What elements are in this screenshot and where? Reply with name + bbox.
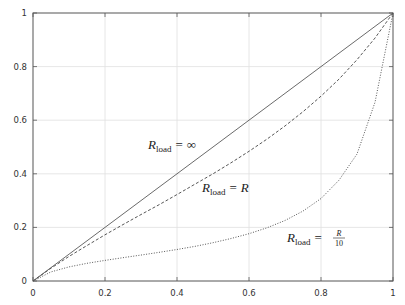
y-tick-label: 0.2 — [13, 222, 27, 232]
annotation-rload-r: Rload=R — [201, 180, 249, 197]
annot-r: R — [201, 180, 210, 195]
y-tick-label: 0 — [22, 276, 27, 286]
annot-frac-num: R — [336, 229, 342, 238]
annot-r: R — [147, 137, 156, 152]
x-tick-labels: 00.20.40.60.81 — [30, 288, 395, 298]
annot-eq: = — [229, 180, 236, 195]
annot-r: R — [286, 230, 295, 245]
annot-lhs: Rload= — [286, 230, 322, 247]
x-tick-label: 0.4 — [170, 288, 184, 298]
y-tick-label: 0.6 — [13, 115, 27, 125]
annot-eq: = — [175, 137, 182, 152]
y-tick-labels: 00.20.40.60.81 — [13, 8, 27, 286]
annot-rhs: R — [240, 180, 249, 195]
annot-sub: load — [156, 144, 172, 154]
annot-sub: load — [210, 187, 226, 197]
x-tick-label: 0.6 — [242, 288, 256, 298]
y-tick-label: 0.8 — [13, 62, 27, 72]
annot-sub: load — [295, 237, 311, 247]
annotation-rload-r10: Rload= R 10 — [286, 229, 345, 248]
x-tick-label: 0.2 — [98, 288, 112, 298]
y-tick-label: 0.4 — [13, 169, 27, 179]
chart: 00.20.40.60.81 00.20.40.60.81 Rload=∞ Rl… — [0, 0, 405, 305]
x-tick-label: 0.8 — [314, 288, 328, 298]
annot-eq: = — [314, 230, 321, 245]
annot-frac-den: 10 — [335, 239, 343, 248]
y-tick-label: 1 — [22, 8, 27, 18]
annot-rhs: ∞ — [187, 137, 196, 152]
x-tick-label: 0 — [30, 288, 35, 298]
annotation-rload-inf: Rload=∞ — [147, 137, 196, 154]
x-tick-label: 1 — [390, 288, 395, 298]
